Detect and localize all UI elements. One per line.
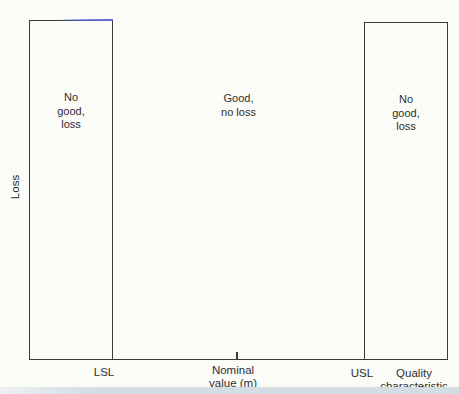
region-label-line: No [29,91,113,105]
region-label-line: no loss [113,106,364,120]
quality-loss-goalpost-diagram: Loss No good, loss Good, no loss No good… [0,0,459,394]
region-label-below-lsl: No good, loss [29,91,113,132]
region-label-line: good, [29,105,113,119]
nominal-value-tick [236,352,238,360]
x-axis-line [29,359,448,361]
x-label-nominal-line: Nominal [192,364,274,377]
region-label-line: loss [29,118,113,132]
scan-edge-band [0,387,459,394]
region-label-within-spec: Good, no loss [113,92,364,119]
region-label-line: loss [364,120,448,134]
y-axis-label-loss: Loss [9,156,21,218]
x-axis-title-line: Quality [370,367,458,380]
region-label-line: Good, [113,92,364,106]
x-label-lsl: LSL [84,366,124,379]
scan-artifact-blue-line [62,19,113,21]
region-label-line: good, [364,107,448,121]
lsl-region-box [29,20,113,360]
usl-region-box [364,22,448,360]
region-label-line: No [364,93,448,107]
region-label-above-usl: No good, loss [364,93,448,134]
